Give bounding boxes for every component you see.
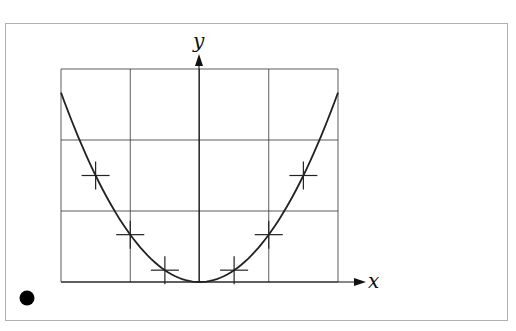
plus-marker-icon <box>220 256 248 284</box>
plus-marker-icon <box>116 221 144 249</box>
bullet-dot-icon <box>20 291 35 306</box>
x-axis-arrow-icon <box>354 278 366 286</box>
x-axis-label: x <box>368 269 379 293</box>
plus-marker-icon <box>255 221 283 249</box>
y-axis-label: y <box>192 29 205 53</box>
plus-marker-icon <box>82 162 110 190</box>
plus-marker-icon <box>151 256 179 284</box>
plus-marker-icon <box>289 162 317 190</box>
outer-frame <box>6 24 508 321</box>
parabola-chart: x y <box>0 0 516 331</box>
y-axis-arrow-icon <box>195 54 203 66</box>
figure-frame: x y <box>0 0 516 331</box>
